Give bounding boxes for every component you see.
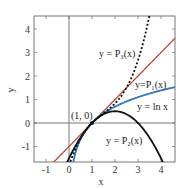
x-tick-label: 1 bbox=[90, 164, 95, 175]
y-axis-label: y bbox=[5, 88, 16, 93]
y-tick-label: 3 bbox=[25, 47, 30, 58]
x-axis-label: x bbox=[99, 176, 104, 187]
x-tick-label: -1 bbox=[42, 164, 50, 175]
label-ln: y = ln x bbox=[137, 101, 168, 112]
label-p3: y = P₃(x) bbox=[99, 48, 135, 60]
x-tick-label: 0 bbox=[67, 164, 72, 175]
y-tick-label: 1 bbox=[25, 94, 30, 105]
x-tick-label: 2 bbox=[113, 164, 118, 175]
x-tick-label: 3 bbox=[136, 164, 141, 175]
label-p1: y=P₁(x) bbox=[135, 79, 166, 91]
label-point: (1, 0) bbox=[71, 110, 93, 122]
point-marker bbox=[90, 121, 94, 125]
x-tick-label: 4 bbox=[159, 164, 164, 175]
y-tick-label: 0 bbox=[25, 118, 30, 129]
y-tick-label: 4 bbox=[25, 24, 30, 35]
taylor-polynomial-chart: -101234-101234 y = P₃(x) y=P₁(x) y = ln … bbox=[0, 0, 185, 189]
ticks: -101234-101234 bbox=[22, 16, 175, 175]
label-p2: y = P₂(x) bbox=[106, 135, 142, 147]
y-tick-label: -1 bbox=[22, 141, 30, 152]
curves bbox=[32, 0, 177, 189]
y-tick-label: 2 bbox=[25, 71, 30, 82]
